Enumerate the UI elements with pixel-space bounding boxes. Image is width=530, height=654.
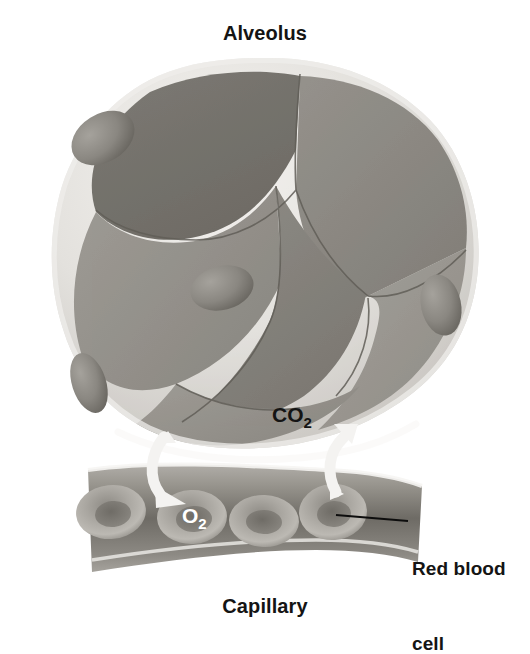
- red-blood-cell-label-line2: cell: [412, 631, 530, 654]
- red-blood-cell-label-line1: Red blood: [412, 556, 530, 581]
- co2-label-text: CO: [272, 403, 304, 426]
- co2-label-subscript: 2: [304, 414, 312, 431]
- alveolus-body: [52, 58, 479, 460]
- o2-label-text: O: [182, 504, 198, 527]
- alveolus-label: Alveolus: [0, 22, 530, 45]
- o2-label-subscript: 2: [198, 515, 206, 532]
- red-blood-cell-label: Red blood cell: [412, 506, 530, 654]
